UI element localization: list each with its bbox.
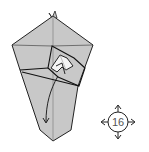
step-number: 16 xyxy=(106,114,130,130)
paper-kite xyxy=(12,16,93,141)
